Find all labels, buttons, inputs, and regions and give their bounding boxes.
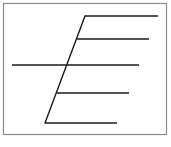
- diagram-frame: [4, 4, 167, 135]
- horizontal-lines-group: [12, 16, 158, 123]
- diagram-canvas: [0, 0, 171, 147]
- line-diagram: [0, 0, 171, 147]
- slanted-spine-line: [45, 16, 85, 123]
